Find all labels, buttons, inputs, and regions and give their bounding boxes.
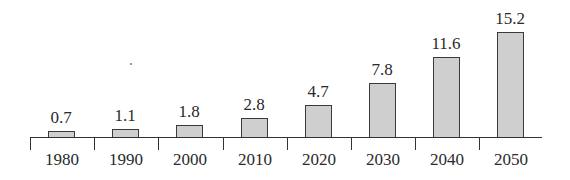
bar-2030 bbox=[369, 83, 396, 138]
x-tick-label: 1990 bbox=[94, 151, 158, 169]
x-tick-label: 2010 bbox=[223, 151, 287, 169]
x-axis-tick bbox=[158, 137, 159, 150]
value-label: 4.7 bbox=[288, 83, 348, 100]
stray-dot bbox=[130, 63, 132, 65]
x-axis-tick bbox=[479, 137, 480, 150]
value-label: 0.7 bbox=[31, 109, 91, 126]
x-tick-label: 2050 bbox=[479, 151, 543, 169]
value-label: 7.8 bbox=[352, 61, 412, 78]
value-label: 1.1 bbox=[95, 107, 155, 124]
x-axis-tick bbox=[30, 137, 31, 150]
bar-2020 bbox=[305, 105, 332, 138]
bar-2040 bbox=[433, 57, 460, 138]
x-axis-tick bbox=[287, 137, 288, 150]
x-tick-label: 2030 bbox=[351, 151, 415, 169]
x-tick-label: 2000 bbox=[158, 151, 222, 169]
bar-2010 bbox=[241, 118, 268, 138]
value-label: 2.8 bbox=[224, 96, 284, 113]
bar-2050 bbox=[497, 32, 524, 138]
x-axis-tick bbox=[351, 137, 352, 150]
value-label: 15.2 bbox=[480, 10, 540, 27]
x-tick-label: 2020 bbox=[287, 151, 351, 169]
x-axis-tick bbox=[223, 137, 224, 150]
value-label: 1.8 bbox=[159, 103, 219, 120]
value-label: 11.6 bbox=[416, 35, 476, 52]
x-tick-label: 2040 bbox=[415, 151, 479, 169]
bar-chart: 0.71.11.82.84.77.811.615.2 1980199020002… bbox=[0, 0, 570, 180]
x-axis-tick bbox=[415, 137, 416, 150]
x-axis-tick bbox=[94, 137, 95, 150]
x-tick-label: 1980 bbox=[30, 151, 94, 169]
x-axis-line bbox=[30, 137, 542, 138]
